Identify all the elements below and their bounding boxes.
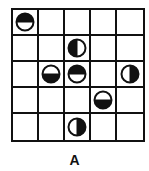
grid-cell: [39, 36, 65, 62]
grid-cell: [13, 10, 39, 36]
grid-cell: [39, 88, 65, 114]
grid-cell: [65, 10, 91, 36]
grid-cell: [117, 88, 143, 114]
grid-cell: [117, 114, 143, 140]
half-filled-circle-icon-bottom: [93, 90, 113, 110]
grid-cell: [91, 62, 117, 88]
grid-cell: [13, 88, 39, 114]
grid-cell: [13, 62, 39, 88]
grid-cell: [117, 36, 143, 62]
grid-cell: [65, 114, 91, 140]
grid-cell: [117, 62, 143, 88]
half-filled-circle-icon-bottom: [41, 64, 61, 84]
puzzle-grid: [11, 8, 145, 142]
grid-cell: [13, 114, 39, 140]
half-filled-circle-icon-right: [120, 64, 140, 84]
grid-cell: [39, 62, 65, 88]
half-filled-circle-icon-top: [15, 12, 35, 32]
grid-cell: [117, 10, 143, 36]
grid-cell: [13, 36, 39, 62]
grid-cell: [39, 10, 65, 36]
grid-cell: [65, 36, 91, 62]
grid-cell: [91, 114, 117, 140]
grid-cell: [91, 36, 117, 62]
half-filled-circle-icon-left: [67, 38, 87, 58]
grid-cell: [65, 88, 91, 114]
grid-cell: [65, 62, 91, 88]
grid-cell: [91, 10, 117, 36]
half-filled-circle-icon-right: [67, 117, 87, 137]
half-filled-circle-icon-top: [67, 64, 87, 84]
grid-cell: [39, 114, 65, 140]
figure-label: A: [0, 152, 149, 168]
grid-cell: [91, 88, 117, 114]
